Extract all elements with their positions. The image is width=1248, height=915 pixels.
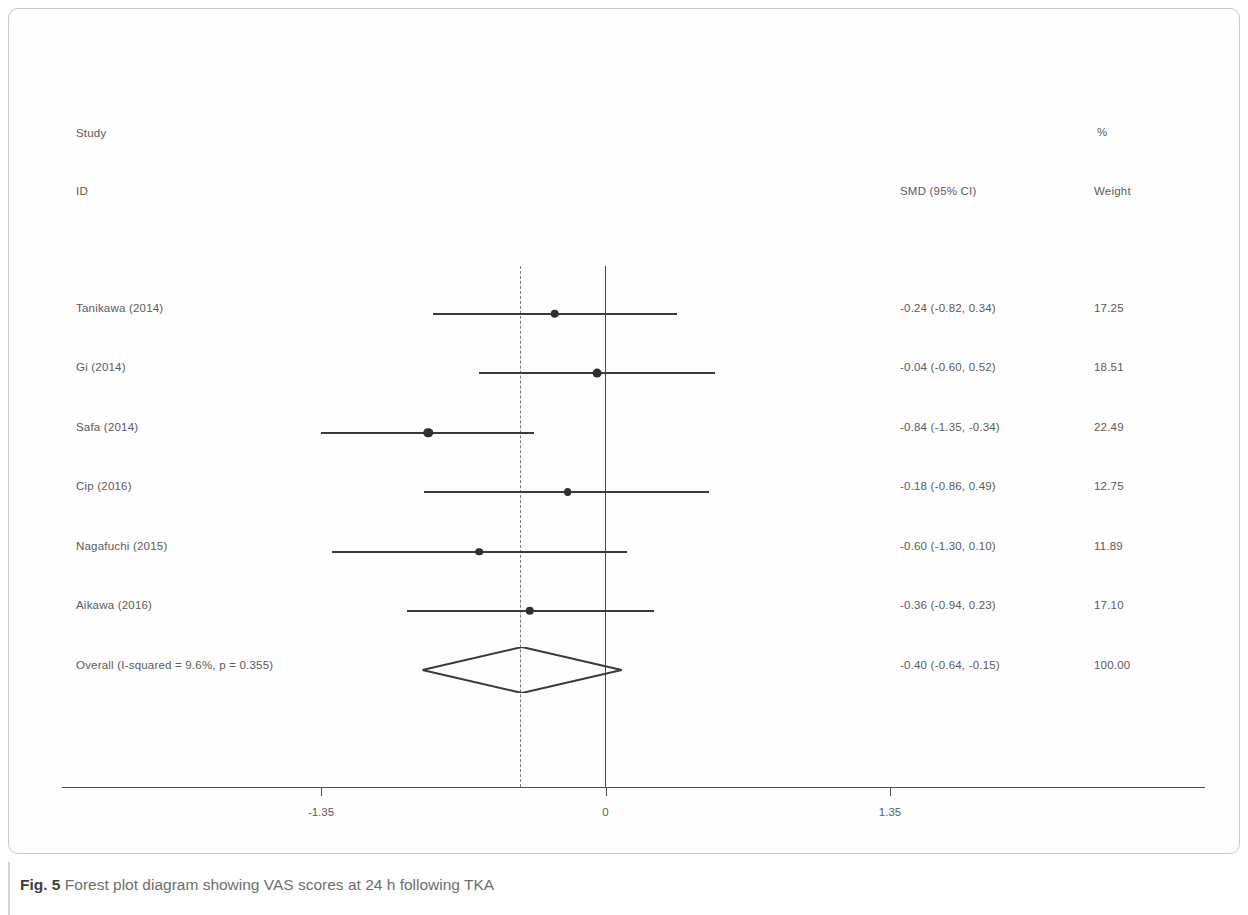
caption-left-rule — [8, 862, 10, 915]
column-header-percent: % — [1097, 126, 1107, 138]
study-label: Cip (2016) — [76, 480, 132, 492]
pooled-effect-reference-line — [520, 266, 521, 787]
study-label: Tanikawa (2014) — [76, 302, 163, 314]
x-axis-tick — [321, 787, 322, 796]
smd-value: -0.36 (-0.94, 0.23) — [900, 599, 996, 611]
x-axis-tick-label: 1.35 — [879, 806, 901, 818]
x-axis-tick-label: -1.35 — [308, 806, 334, 818]
null-effect-reference-line — [605, 266, 606, 787]
weight-value: 22.49 — [1094, 421, 1124, 433]
study-label: Nagafuchi (2015) — [76, 540, 167, 552]
weight-value: 17.10 — [1094, 599, 1124, 611]
x-axis-tick — [606, 787, 607, 796]
smd-value: -0.04 (-0.60, 0.52) — [900, 361, 996, 373]
column-header-id: ID — [76, 185, 88, 197]
column-header-study: Study — [76, 127, 106, 139]
forest-plot: Study ID % SMD (95% CI) Weight Tanikawa … — [0, 0, 1248, 860]
effect-size-marker — [551, 310, 560, 319]
x-axis-tick — [890, 787, 891, 796]
effect-size-marker — [593, 368, 602, 377]
effect-size-marker — [525, 607, 534, 616]
study-label: Aikawa (2016) — [76, 599, 152, 611]
effect-size-marker — [564, 488, 572, 496]
overall-weight-value: 100.00 — [1094, 659, 1130, 671]
weight-value: 17.25 — [1094, 302, 1124, 314]
smd-value: -0.60 (-1.30, 0.10) — [900, 540, 996, 552]
x-axis-tick-label: 0 — [602, 806, 608, 818]
study-label: Gi (2014) — [76, 361, 126, 373]
smd-value: -0.18 (-0.86, 0.49) — [900, 480, 996, 492]
weight-value: 18.51 — [1094, 361, 1124, 373]
effect-size-marker — [475, 548, 483, 556]
figure-caption: Fig. 5 Forest plot diagram showing VAS s… — [20, 876, 494, 894]
smd-value: -0.84 (-1.35, -0.34) — [900, 421, 1000, 433]
weight-value: 11.89 — [1094, 540, 1123, 552]
column-header-weight: Weight — [1094, 185, 1131, 197]
x-axis-line — [62, 787, 1205, 788]
figure-caption-text: Forest plot diagram showing VAS scores a… — [60, 876, 494, 893]
figure-caption-number: Fig. 5 — [20, 876, 60, 893]
overall-label: Overall (I-squared = 9.6%, p = 0.355) — [76, 659, 273, 671]
weight-value: 12.75 — [1094, 480, 1124, 492]
effect-size-marker — [424, 428, 434, 438]
smd-value: -0.24 (-0.82, 0.34) — [900, 302, 996, 314]
column-header-smd: SMD (95% CI) — [900, 185, 977, 197]
pooled-effect-diamond — [423, 647, 622, 693]
overall-smd-value: -0.40 (-0.64, -0.15) — [900, 659, 1000, 671]
study-label: Safa (2014) — [76, 421, 138, 433]
